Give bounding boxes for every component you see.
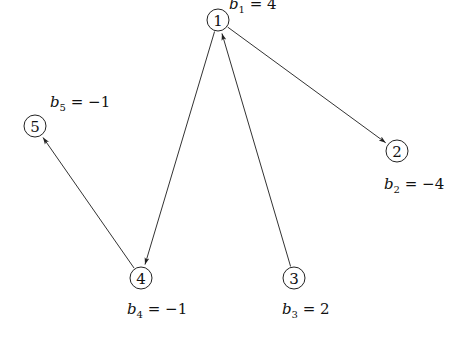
edge-3-to-1 bbox=[222, 33, 291, 266]
supply-value: = 2 bbox=[298, 300, 330, 318]
graph-canvas: 12345 b1 = 4b2 = −4b3 = 2b4 = −1b5 = −1 bbox=[0, 0, 475, 341]
edge-1-to-2 bbox=[228, 27, 386, 143]
edge-1-to-4 bbox=[145, 31, 215, 264]
node-3: 3 bbox=[283, 267, 305, 289]
supply-label-3: b3 = 2 bbox=[282, 300, 330, 320]
supply-var: b bbox=[50, 93, 60, 111]
supply-label-2: b2 = −4 bbox=[384, 175, 444, 195]
supply-label-1: b1 = 4 bbox=[229, 0, 277, 15]
supply-var: b bbox=[127, 300, 137, 318]
edges-group bbox=[43, 27, 386, 268]
nodes-group: 12345 bbox=[24, 9, 408, 289]
edge-4-to-5 bbox=[43, 137, 134, 268]
supply-labels-group: b1 = 4b2 = −4b3 = 2b4 = −1b5 = −1 bbox=[50, 0, 444, 320]
supply-value: = 4 bbox=[245, 0, 277, 13]
supply-var: b bbox=[282, 300, 292, 318]
node-label: 2 bbox=[392, 143, 402, 161]
node-4: 4 bbox=[130, 267, 152, 289]
node-label: 1 bbox=[213, 12, 223, 30]
supply-value: = −1 bbox=[66, 93, 110, 111]
supply-value: = −1 bbox=[143, 300, 187, 318]
node-label: 4 bbox=[136, 270, 146, 288]
supply-label-4: b4 = −1 bbox=[127, 300, 187, 320]
supply-var: b bbox=[229, 0, 239, 13]
supply-label-5: b5 = −1 bbox=[50, 93, 110, 113]
node-5: 5 bbox=[24, 115, 46, 137]
node-1: 1 bbox=[207, 9, 229, 31]
node-label: 5 bbox=[30, 118, 40, 136]
supply-value: = −4 bbox=[400, 175, 444, 193]
supply-var: b bbox=[384, 175, 394, 193]
node-label: 3 bbox=[289, 270, 299, 288]
node-2: 2 bbox=[386, 140, 408, 162]
